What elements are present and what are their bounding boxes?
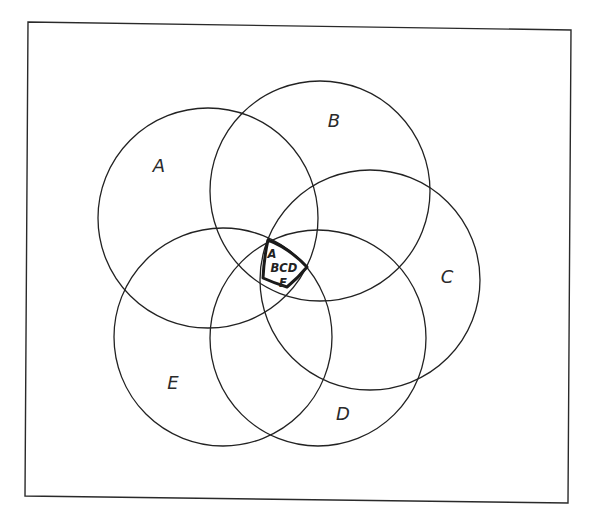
set-d-label: D	[336, 403, 350, 424]
set-e-label: E	[167, 372, 179, 393]
core-label-line-2: BCD	[271, 261, 298, 275]
core-label-line-3: E	[279, 276, 287, 290]
set-b-label: B	[328, 110, 340, 131]
set-d-circle	[210, 230, 426, 446]
set-labels: A B C D E	[152, 110, 454, 424]
core-label-line-1: A	[267, 247, 277, 261]
set-c-label: C	[441, 266, 454, 287]
venn-diagram-canvas: A B C D E A BCD E	[0, 0, 590, 525]
set-a-label: A	[152, 155, 165, 176]
